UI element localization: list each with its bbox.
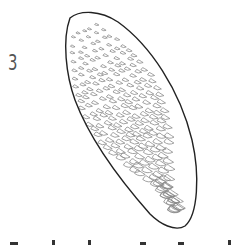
- cone-scale: [96, 109, 103, 113]
- cone-scale: [76, 93, 82, 96]
- cone-scale: [85, 103, 92, 107]
- cone-scale: [106, 95, 113, 99]
- cone-scale: [119, 62, 125, 65]
- cone-scale: [163, 148, 173, 154]
- cone-scale: [120, 51, 126, 54]
- cone-scale: [163, 124, 172, 129]
- cone-scale: [118, 88, 125, 92]
- cone-scale: [160, 108, 169, 113]
- cone-scale: [78, 51, 83, 54]
- cone-scale: [157, 99, 165, 104]
- cone-scale: [128, 148, 138, 153]
- cone-scale: [96, 89, 103, 93]
- cone-scale: [164, 133, 174, 138]
- cone-scale: [109, 68, 115, 71]
- cone-scale: [143, 133, 152, 138]
- cone-scale: [102, 71, 108, 74]
- cone-scale: [137, 86, 144, 90]
- cone-scale: [140, 129, 149, 134]
- cone-scale: [105, 110, 113, 114]
- cone-scale: [95, 23, 99, 25]
- cone-scale: [114, 56, 120, 59]
- cone-scale: [107, 35, 112, 38]
- cone-scale: [135, 69, 142, 73]
- cone-scale: [132, 97, 140, 101]
- cone-scale: [97, 73, 103, 76]
- cone-scale: [92, 49, 97, 52]
- cone-scale: [118, 97, 125, 101]
- cone-scale: [123, 110, 131, 114]
- pine-cone-drawing: [0, 0, 242, 245]
- cone-scale: [115, 47, 121, 50]
- cone-scale: [102, 36, 107, 39]
- cone-scale: [103, 105, 110, 109]
- cone-scales: [70, 23, 185, 213]
- cone-scale: [83, 30, 87, 32]
- cone-scale: [99, 96, 106, 100]
- cone-scale: [95, 40, 100, 43]
- cone-scale: [78, 73, 84, 76]
- cone-scale: [156, 126, 165, 131]
- cone-scale: [126, 49, 132, 52]
- cone-scale: [154, 86, 162, 90]
- cone-scale: [124, 67, 130, 70]
- cone-scale: [164, 165, 175, 171]
- cone-scale: [112, 105, 120, 109]
- cone-scale: [120, 153, 130, 158]
- cone-scale: [156, 145, 166, 150]
- cone-scale: [72, 77, 78, 80]
- cone-outline: [66, 12, 197, 228]
- cone-scale: [137, 60, 143, 63]
- cone-scale: [144, 83, 151, 87]
- cone-scale: [116, 81, 123, 85]
- cone-scale: [141, 68, 148, 72]
- cone-scale: [148, 72, 155, 76]
- cone-scale: [149, 163, 160, 169]
- cone-scale: [149, 130, 158, 135]
- cone-scale: [87, 87, 93, 90]
- cone-scale: [70, 51, 75, 54]
- cone-scale: [131, 54, 137, 57]
- cone-scale: [80, 83, 86, 86]
- cone-scale: [90, 75, 96, 78]
- cone-scale: [157, 118, 166, 123]
- cone-scale: [132, 114, 140, 119]
- cone-scale: [94, 31, 99, 33]
- cone-scale: [79, 57, 84, 60]
- cone-scale: [125, 100, 133, 104]
- cone-scale: [156, 92, 164, 96]
- cone-scale: [105, 138, 114, 143]
- cone-scale: [99, 47, 104, 50]
- cone-scale: [101, 64, 107, 67]
- cone-scale: [82, 91, 88, 94]
- cone-scale: [139, 160, 149, 166]
- cone-scale: [90, 58, 96, 61]
- cone-scale: [128, 57, 134, 60]
- cone-scale: [122, 78, 129, 82]
- cone-scale: [90, 92, 97, 96]
- cone-scale: [85, 80, 91, 83]
- cone-scale: [106, 78, 112, 81]
- cone-scale: [93, 116, 101, 120]
- cone-scale: [85, 54, 90, 57]
- cone-scale: [71, 36, 75, 38]
- cone-scale: [108, 125, 116, 130]
- cone-scale: [109, 99, 116, 103]
- cone-scale: [153, 139, 163, 144]
- cone-scale: [103, 54, 109, 57]
- cone-scale: [131, 91, 138, 95]
- cone-scale: [149, 174, 160, 180]
- cone-scale: [72, 69, 78, 72]
- cone-scale: [108, 116, 116, 120]
- cone-scale: [130, 63, 136, 66]
- cone-scale: [87, 69, 93, 72]
- cone-scale: [133, 162, 143, 168]
- cone-scale: [138, 143, 148, 148]
- cone-scale: [135, 170, 146, 176]
- cutoff-text-fragment: [0, 239, 242, 245]
- cone-scale: [111, 133, 120, 138]
- cone-scale: [83, 95, 90, 99]
- cone-scale: [166, 189, 178, 196]
- cone-scale: [83, 62, 89, 65]
- cone-scale: [78, 99, 85, 103]
